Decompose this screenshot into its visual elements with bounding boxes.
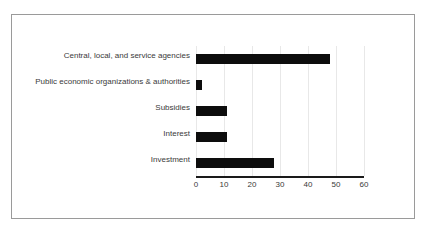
x-tick-label-20: 20 bbox=[248, 180, 257, 189]
bar-central-local-and-service-agencies bbox=[196, 54, 330, 64]
bar-row: Investment bbox=[196, 150, 364, 176]
category-label: Subsidies bbox=[155, 102, 190, 114]
gridline bbox=[364, 46, 365, 176]
x-tick-label-40: 40 bbox=[304, 180, 313, 189]
bar-row: Interest bbox=[196, 124, 364, 150]
bar-interest bbox=[196, 132, 227, 142]
category-label: Investment bbox=[151, 154, 190, 166]
bar-row: Public economic organizations & authorit… bbox=[196, 72, 364, 98]
bar-public-economic-organizations-and-authorities bbox=[196, 80, 202, 90]
bar-investment bbox=[196, 158, 274, 168]
category-label: Public economic organizations & authorit… bbox=[35, 76, 190, 88]
x-tick-label-10: 10 bbox=[220, 180, 229, 189]
category-label: Central, local, and service agencies bbox=[64, 50, 190, 62]
category-label: Interest bbox=[163, 128, 190, 140]
x-tick-label-0: 0 bbox=[194, 180, 198, 189]
chart-figure: Central, local, and service agencies Pub… bbox=[0, 0, 429, 233]
bar-row: Subsidies bbox=[196, 98, 364, 124]
plot-area: Central, local, and service agencies Pub… bbox=[196, 46, 364, 176]
x-tick-label-50: 50 bbox=[332, 180, 341, 189]
bar-subsidies bbox=[196, 106, 227, 116]
x-tick-label-30: 30 bbox=[276, 180, 285, 189]
x-axis-line bbox=[196, 176, 364, 178]
x-tick-label-60: 60 bbox=[360, 180, 369, 189]
bar-row: Central, local, and service agencies bbox=[196, 46, 364, 72]
